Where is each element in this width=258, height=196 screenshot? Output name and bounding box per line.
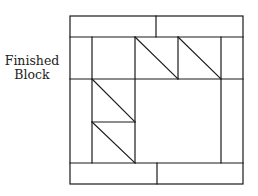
top-triangle-1-diagonal <box>135 37 178 79</box>
left-triangle-2-diagonal <box>92 122 135 163</box>
outer-frame <box>70 16 243 184</box>
top-triangle-2-diagonal <box>178 37 221 79</box>
quilt-block-diagram <box>0 0 258 196</box>
left-triangle-1-diagonal <box>92 79 135 122</box>
